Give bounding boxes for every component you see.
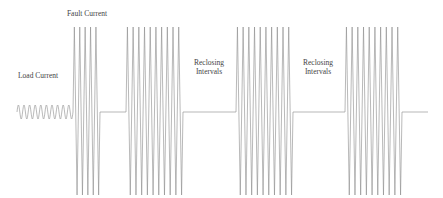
fault-current-label: Fault Current bbox=[67, 9, 108, 18]
reclosing-interval-2-label-line1: Reclosing bbox=[303, 58, 333, 67]
reclosing-interval-2-label-line2: Intervals bbox=[305, 67, 331, 76]
load-current-wave bbox=[17, 105, 73, 119]
reclose-1-current-burst bbox=[126, 27, 183, 195]
reclosing-interval-1-label-line1: Reclosing bbox=[194, 58, 224, 67]
reclosing-waveform-diagram: Fault Current Load Current Reclosing Int… bbox=[0, 0, 443, 198]
current-waveform bbox=[17, 27, 428, 195]
reclose-2-current-burst bbox=[236, 27, 293, 195]
reclose-3-current-burst bbox=[345, 27, 402, 195]
fault-current-burst bbox=[73, 27, 100, 195]
reclosing-interval-1-label-line2: Intervals bbox=[196, 67, 222, 76]
load-current-label: Load Current bbox=[18, 71, 59, 80]
